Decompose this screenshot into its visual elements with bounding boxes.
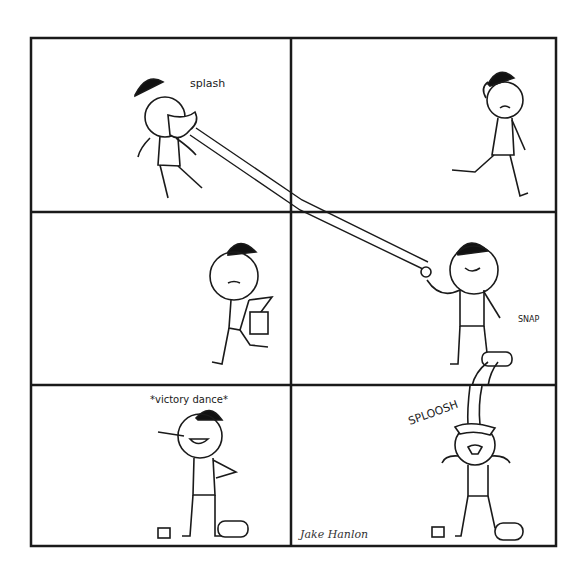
panel-borders <box>31 38 556 546</box>
stick-figure-dancing <box>158 410 248 538</box>
stick-figure-walking <box>210 244 272 365</box>
panel-2 <box>452 72 528 196</box>
water-stream <box>190 128 428 270</box>
sfx-splash: splash <box>190 77 225 90</box>
stick-figure-smug <box>421 243 512 386</box>
artist-signature: Jake Hanlon <box>298 528 368 541</box>
stick-figure-wet <box>452 72 528 196</box>
sfx-snap: SNAP <box>518 315 540 324</box>
stick-figure-splashed <box>135 79 202 198</box>
comic-strip: splash <box>0 0 585 574</box>
panel-5: *victory dance* <box>150 394 248 538</box>
panel-4: SNAP <box>421 243 540 386</box>
panel-6: SPLOOSH Jake Hanlon <box>298 386 523 541</box>
sfx-sploosh: SPLOOSH <box>407 398 460 428</box>
panel-1: splash <box>135 77 225 198</box>
caption-victory-dance: *victory dance* <box>150 394 228 405</box>
panel-3 <box>210 244 272 365</box>
